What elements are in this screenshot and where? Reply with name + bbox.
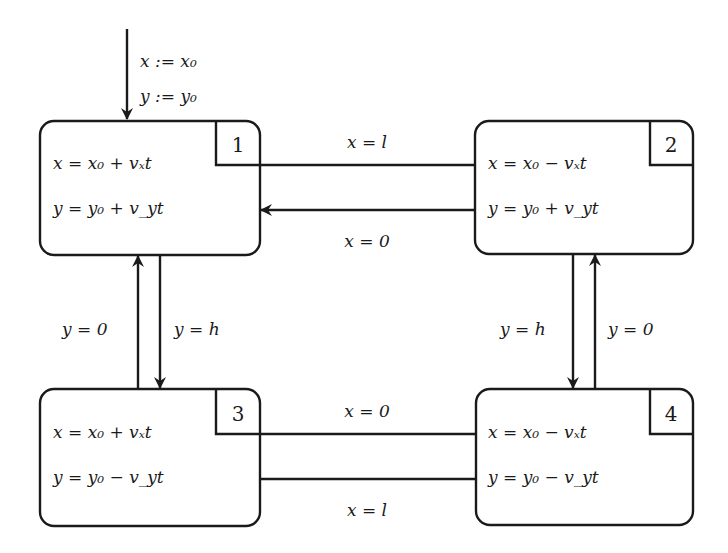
transition-1-to-2: x = l: [260, 132, 475, 165]
initial-assignment-x: x := x₀: [140, 51, 197, 71]
guard-label: y = 0: [607, 319, 654, 339]
guard-label: y = h: [173, 319, 220, 339]
state-1: 1 x = x₀ + vₓt y = y₀ + v_yt: [40, 121, 260, 255]
state-2: 2 x = x₀ − vₓt y = y₀ + v_yt: [475, 121, 693, 254]
state-number: 1: [232, 133, 245, 157]
hybrid-automaton-diagram: x := x₀ y := y₀ x = l x = 0 y = h y = 0 …: [0, 0, 728, 553]
initial-transition: x := x₀ y := y₀: [127, 29, 197, 119]
equation-x: x = x₀ + vₓt: [53, 422, 152, 442]
transition-2-to-4: y = h: [499, 254, 573, 388]
guard-label: x = 0: [344, 401, 390, 421]
transition-4-to-3: x = 0: [260, 401, 476, 434]
state-number: 4: [665, 402, 678, 426]
equation-x: x = x₀ + vₓt: [53, 153, 152, 173]
guard-label: x = l: [347, 132, 387, 152]
equation-y: y = y₀ + v_yt: [487, 198, 599, 218]
equation-y: y = y₀ + v_yt: [52, 198, 164, 218]
equation-x: x = x₀ − vₓt: [488, 153, 587, 173]
state-4: 4 x = x₀ − vₓt y = y₀ − v_yt: [476, 389, 693, 525]
state-number: 3: [232, 402, 245, 426]
transition-1-to-3: y = h: [160, 255, 220, 388]
transition-3-to-4: x = l: [260, 479, 476, 520]
transition-2-to-1: x = 0: [261, 210, 475, 251]
equation-x: x = x₀ − vₓt: [488, 422, 587, 442]
state-3: 3 x = x₀ + vₓt y = y₀ − v_yt: [40, 389, 260, 526]
equation-y: y = y₀ − v_yt: [52, 467, 164, 487]
guard-label: y = h: [499, 319, 546, 339]
transition-3-to-1: y = 0: [61, 256, 138, 389]
transition-4-to-2: y = 0: [595, 255, 654, 389]
guard-label: x = l: [347, 500, 387, 520]
guard-label: y = 0: [61, 319, 108, 339]
state-number: 2: [665, 133, 678, 157]
guard-label: x = 0: [344, 231, 390, 251]
equation-y: y = y₀ − v_yt: [487, 467, 599, 487]
initial-assignment-y: y := y₀: [139, 86, 197, 106]
